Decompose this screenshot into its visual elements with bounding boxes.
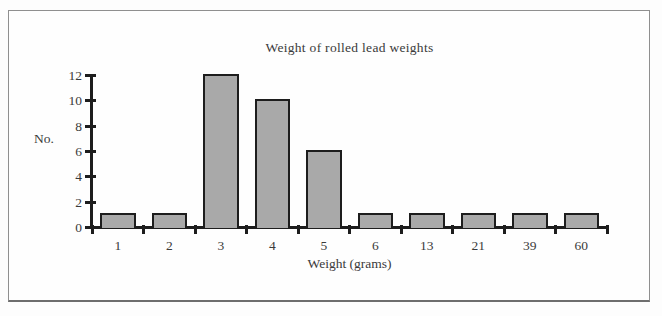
x-category-label: 3 [195, 238, 247, 254]
y-tick [85, 175, 96, 178]
y-tick-label: 4 [52, 169, 82, 184]
y-tick-label: 0 [52, 220, 82, 235]
x-category-label: 13 [401, 238, 453, 254]
x-tick [554, 225, 557, 234]
x-tick [297, 225, 300, 234]
x-tick [245, 225, 248, 234]
x-category-label: 2 [144, 238, 196, 254]
x-tick [194, 225, 197, 234]
bar [461, 213, 497, 228]
x-category-label: 6 [350, 238, 402, 254]
x-tick [142, 225, 145, 234]
chart-title: Weight of rolled lead weights [92, 40, 607, 56]
x-tick [503, 225, 506, 234]
x-category-label: 5 [298, 238, 350, 254]
y-axis-title: No. [34, 131, 54, 147]
y-tick [85, 150, 96, 153]
x-category-label: 4 [247, 238, 299, 254]
bar [255, 99, 291, 228]
y-tick-label: 2 [52, 195, 82, 210]
x-tick [400, 225, 403, 234]
y-tick-label: 12 [52, 68, 82, 83]
x-category-label: 21 [453, 238, 505, 254]
y-tick-label: 10 [52, 93, 82, 108]
x-axis-title: Weight (grams) [92, 256, 607, 272]
y-tick-label: 6 [52, 144, 82, 159]
y-tick [85, 201, 96, 204]
bar [409, 213, 445, 228]
x-category-label: 1 [92, 238, 144, 254]
x-tick [451, 225, 454, 234]
y-tick-label: 8 [52, 119, 82, 134]
bar [306, 150, 342, 228]
x-category-label: 39 [504, 238, 556, 254]
scanned-chart-page: Weight of rolled lead weights No. Weight… [0, 0, 662, 316]
bar [100, 213, 136, 228]
bar [358, 213, 394, 228]
bar [512, 213, 548, 228]
bar [564, 213, 600, 228]
x-tick [91, 225, 94, 234]
y-tick [85, 99, 96, 102]
bar-chart: Weight of rolled lead weights No. Weight… [0, 0, 662, 316]
x-tick [348, 225, 351, 234]
bar [152, 213, 188, 228]
x-category-label: 60 [556, 238, 608, 254]
y-tick [85, 74, 96, 77]
bar [203, 74, 239, 228]
x-tick [606, 225, 609, 234]
y-tick [85, 125, 96, 128]
